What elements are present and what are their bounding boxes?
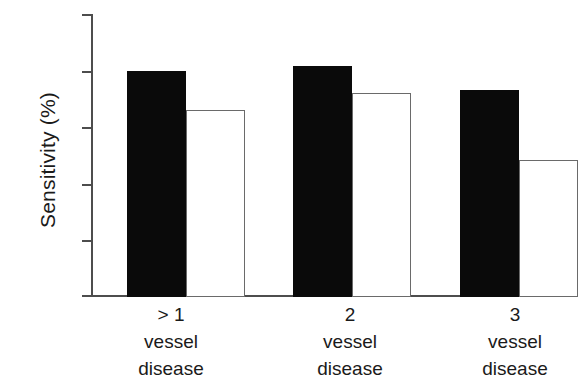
y-axis-tick-100	[82, 14, 93, 16]
y-axis-tick-0	[82, 295, 93, 297]
category-label-g3-line3: disease	[441, 356, 582, 383]
category-label-group-3: 3 vessel disease	[441, 302, 582, 383]
category-label-g2-line3: disease	[276, 356, 424, 383]
category-label-g1-line3: disease	[97, 356, 245, 383]
bar-filled-group-1	[127, 71, 186, 297]
bar-open-group-1	[186, 110, 245, 297]
category-label-group-2: 2 vessel disease	[276, 302, 424, 383]
y-axis-line	[91, 14, 93, 297]
category-label-g3-line2: vessel	[441, 329, 582, 356]
y-axis-tick-20	[82, 240, 93, 242]
bar-filled-group-2	[293, 66, 352, 297]
y-axis-tick-60	[82, 127, 93, 129]
category-label-g1-line2: vessel	[97, 329, 245, 356]
category-label-g1-line1: > 1	[97, 302, 245, 329]
y-axis-tick-80	[82, 71, 93, 73]
category-label-group-1: > 1 vessel disease	[97, 302, 245, 383]
bar-open-group-3	[519, 160, 578, 297]
bar-open-group-2	[352, 93, 411, 297]
category-label-g2-line2: vessel	[276, 329, 424, 356]
bar-filled-group-3	[460, 90, 519, 297]
category-label-g2-line1: 2	[276, 302, 424, 329]
x-axis-category-labels: > 1 vessel disease 2 vessel disease 3 ve…	[91, 302, 571, 390]
y-axis-tick-40	[82, 184, 93, 186]
y-axis-title: Sensitivity (%)	[36, 20, 60, 300]
plot-area	[91, 14, 571, 297]
category-label-g3-line1: 3	[441, 302, 582, 329]
